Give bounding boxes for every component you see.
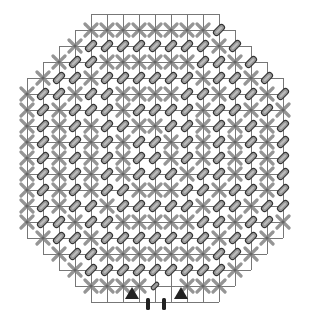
pill-marker bbox=[84, 39, 97, 52]
pill-marker bbox=[164, 119, 177, 132]
pill-marker bbox=[196, 231, 209, 244]
cross-center bbox=[281, 220, 284, 223]
cross-center bbox=[153, 220, 156, 223]
pill-marker bbox=[212, 215, 225, 228]
cross-center bbox=[153, 252, 156, 255]
cross-center bbox=[185, 172, 188, 175]
pill-marker bbox=[100, 103, 113, 116]
pill-marker bbox=[228, 103, 241, 116]
pill-marker bbox=[68, 247, 81, 260]
cross-center bbox=[89, 28, 92, 31]
pill-marker bbox=[148, 199, 161, 212]
pill-marker bbox=[212, 263, 225, 276]
pill-marker bbox=[212, 103, 225, 116]
cross-center bbox=[137, 92, 140, 95]
pill-marker bbox=[36, 87, 49, 100]
pill-marker bbox=[116, 199, 129, 212]
cross-center bbox=[121, 108, 124, 111]
cross-center bbox=[201, 140, 204, 143]
cross-center bbox=[233, 268, 236, 271]
pill-marker bbox=[132, 263, 145, 276]
pill-marker bbox=[228, 183, 241, 196]
pill-marker bbox=[276, 135, 289, 148]
pill-marker bbox=[276, 199, 289, 212]
cross-center bbox=[57, 188, 60, 191]
cross-center bbox=[249, 76, 252, 79]
pill-marker bbox=[196, 183, 209, 196]
pill-marker bbox=[36, 151, 49, 164]
cross-center bbox=[233, 220, 236, 223]
pill-marker bbox=[244, 135, 257, 148]
cross-center bbox=[137, 252, 140, 255]
pill-marker bbox=[148, 167, 161, 180]
cross-center bbox=[185, 220, 188, 223]
pill-marker bbox=[212, 135, 225, 148]
cross-center bbox=[233, 172, 236, 175]
cross-center bbox=[105, 60, 108, 63]
pill-marker bbox=[68, 119, 81, 132]
pill-marker bbox=[244, 167, 257, 180]
pill-marker bbox=[36, 135, 49, 148]
cross-center bbox=[121, 220, 124, 223]
cross-center bbox=[233, 156, 236, 159]
cross-center bbox=[185, 284, 188, 287]
pill-marker bbox=[68, 135, 81, 148]
cross-center bbox=[169, 220, 172, 223]
cross-center bbox=[201, 252, 204, 255]
cross-center bbox=[57, 124, 60, 127]
pill-marker bbox=[164, 231, 177, 244]
cross-center bbox=[265, 140, 268, 143]
cross-center bbox=[121, 92, 124, 95]
cross-center bbox=[217, 188, 220, 191]
pill-marker bbox=[164, 263, 177, 276]
pill-marker bbox=[180, 103, 193, 116]
pill-marker bbox=[148, 103, 161, 116]
cross-center bbox=[185, 252, 188, 255]
pill-marker bbox=[180, 199, 193, 212]
pill-marker bbox=[132, 103, 145, 116]
pill-marker bbox=[68, 183, 81, 196]
cross-center bbox=[201, 124, 204, 127]
pill-marker bbox=[52, 87, 65, 100]
pill-marker bbox=[116, 231, 129, 244]
pill-marker bbox=[276, 183, 289, 196]
pill-marker bbox=[228, 231, 241, 244]
pill-marker bbox=[276, 119, 289, 132]
cross-center bbox=[25, 204, 28, 207]
pill-marker bbox=[52, 231, 65, 244]
cross-center bbox=[169, 156, 172, 159]
cross-center bbox=[105, 28, 108, 31]
cross-center bbox=[73, 92, 76, 95]
pill-marker bbox=[132, 231, 145, 244]
pill-marker bbox=[164, 39, 177, 52]
cross-center bbox=[25, 172, 28, 175]
cross-center bbox=[153, 92, 156, 95]
cross-center bbox=[25, 188, 28, 191]
pill-marker bbox=[180, 39, 193, 52]
cross-center bbox=[73, 44, 76, 47]
cross-center bbox=[89, 124, 92, 127]
cross-center bbox=[153, 188, 156, 191]
pill-marker bbox=[196, 39, 209, 52]
pill-marker bbox=[196, 215, 209, 228]
pill-marker bbox=[212, 247, 225, 260]
pill-marker bbox=[84, 55, 97, 68]
cross-center bbox=[25, 108, 28, 111]
cross-center bbox=[137, 284, 140, 287]
pill-marker bbox=[276, 151, 289, 164]
pill-marker bbox=[180, 71, 193, 84]
pill-marker bbox=[100, 215, 113, 228]
pill-marker bbox=[68, 199, 81, 212]
pill-marker bbox=[132, 199, 145, 212]
cross-center bbox=[153, 60, 156, 63]
pill-marker bbox=[148, 39, 161, 52]
pill-marker bbox=[164, 103, 177, 116]
pill-marker bbox=[276, 87, 289, 100]
pill-marker bbox=[100, 87, 113, 100]
cross-center bbox=[137, 60, 140, 63]
pill-marker bbox=[36, 119, 49, 132]
pill-marker bbox=[116, 71, 129, 84]
pill-marker bbox=[84, 103, 97, 116]
pill-marker bbox=[100, 135, 113, 148]
pill-marker bbox=[244, 151, 257, 164]
